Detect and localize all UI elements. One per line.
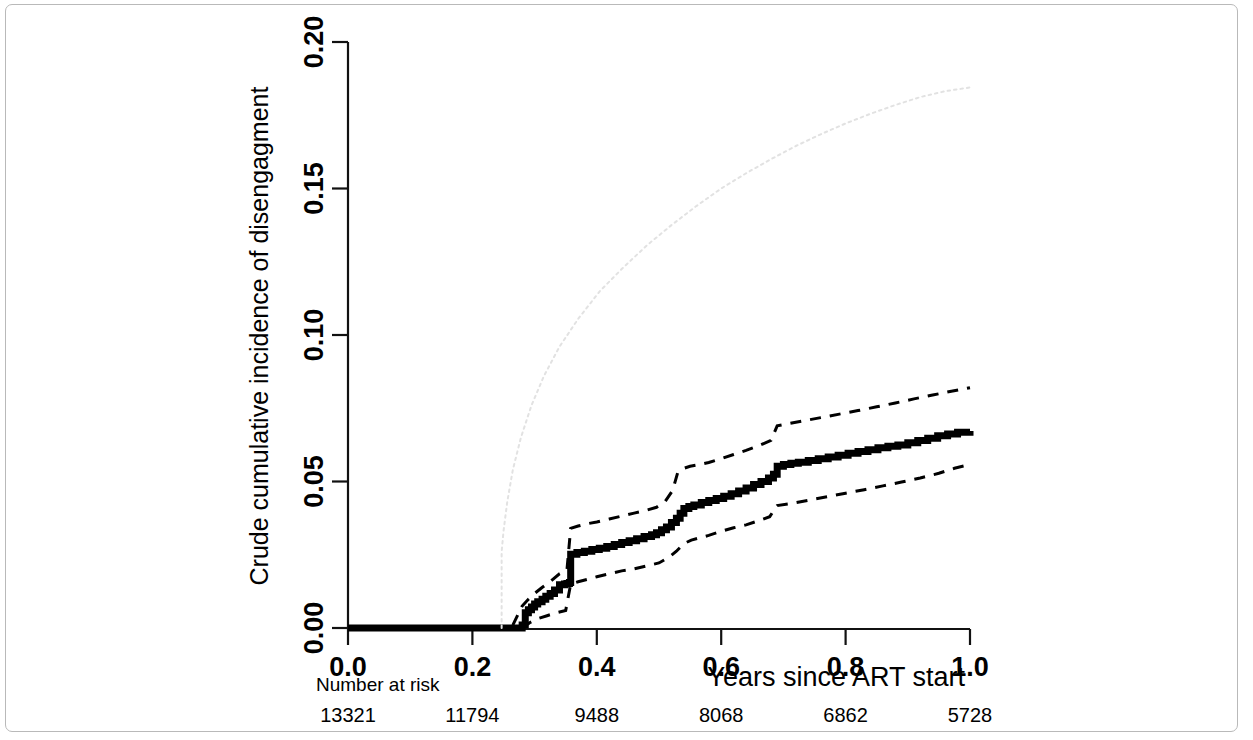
- y-axis-tick-labels: 0.000.050.100.150.20: [299, 16, 329, 655]
- y-tick-label: 0.00: [299, 602, 329, 655]
- risk-count: 6862: [823, 704, 868, 726]
- risk-count: 5728: [948, 704, 993, 726]
- series-upper-confidence-band: [513, 388, 970, 625]
- chart-plot-root: 0.000.050.100.150.20 0.00.20.40.60.81.0 …: [0, 0, 1253, 740]
- cumulative-incidence-chart: 0.000.050.100.150.20 0.00.20.40.60.81.0 …: [0, 0, 1253, 740]
- risk-count: 8068: [699, 704, 744, 726]
- x-tick-label: 0.4: [578, 652, 616, 682]
- risk-count: 9488: [575, 704, 620, 726]
- series-crude-cumulative-incidence: [348, 431, 970, 628]
- series-reference-dotted-curve: [502, 87, 970, 628]
- risk-table-values: 13321117949488806868625728: [320, 704, 992, 726]
- y-tick-label: 0.05: [299, 455, 329, 508]
- y-axis-ticks: [332, 42, 348, 628]
- x-axis-title: Years since ART start: [707, 662, 965, 692]
- y-tick-label: 0.15: [299, 162, 329, 215]
- y-tick-label: 0.20: [299, 16, 329, 69]
- risk-count: 13321: [320, 704, 376, 726]
- data-series-layer: [348, 87, 970, 628]
- y-tick-label: 0.10: [299, 309, 329, 362]
- risk-table-label: Number at risk: [316, 674, 440, 695]
- y-axis-title: Crude cumulative incidence of disengagme…: [245, 86, 273, 585]
- x-tick-label: 0.2: [454, 652, 492, 682]
- risk-count: 11794: [445, 704, 499, 726]
